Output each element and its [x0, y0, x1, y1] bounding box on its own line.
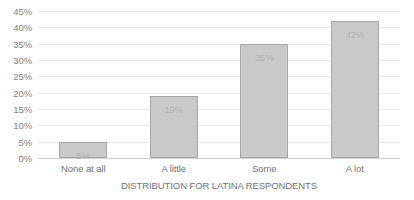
bar-data-label: 35% — [241, 52, 287, 63]
bar-chart: 0%5%10%15%20%25%30%35%40%45% 5%19%35%42%… — [0, 0, 414, 200]
bar[interactable]: 5% — [59, 142, 107, 158]
y-axis-tick-label: 35% — [13, 38, 32, 49]
y-axis-tick-label: 40% — [13, 22, 32, 33]
plot-area: 5%19%35%42% — [38, 11, 400, 158]
x-axis-category-label: A lot — [310, 163, 401, 174]
y-axis-tick-label: 30% — [13, 55, 32, 66]
y-axis-tick-label: 25% — [13, 71, 32, 82]
bar-data-label: 42% — [332, 29, 378, 40]
y-axis-tick-label: 20% — [13, 87, 32, 98]
bar[interactable]: 35% — [240, 44, 288, 158]
y-axis: 0%5%10%15%20%25%30%35%40%45% — [0, 11, 36, 158]
x-axis-category-label: Some — [219, 163, 310, 174]
bar-data-label: 19% — [151, 104, 197, 115]
x-axis-category-label: A little — [129, 163, 220, 174]
bar[interactable]: 42% — [331, 21, 379, 158]
x-axis-category-label: None at all — [38, 163, 129, 174]
y-axis-tick-label: 45% — [13, 6, 32, 17]
x-axis: None at allA littleSomeA lot — [38, 163, 400, 177]
y-axis-tick-label: 10% — [13, 120, 32, 131]
y-axis-tick-label: 5% — [18, 136, 32, 147]
bar[interactable]: 19% — [150, 96, 198, 158]
y-axis-tick-label: 15% — [13, 104, 32, 115]
x-axis-title: DISTRIBUTION FOR LATINA RESPONDENTS — [38, 180, 400, 191]
chart-title — [0, 0, 414, 1]
y-axis-tick-label: 0% — [18, 153, 32, 164]
gridline — [38, 11, 400, 12]
bar-data-label: 5% — [60, 150, 106, 161]
